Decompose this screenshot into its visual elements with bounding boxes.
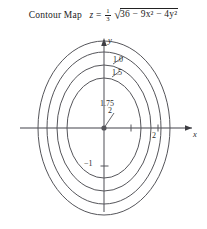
leader-level-2: [104, 113, 114, 128]
y-axis-label: y: [108, 35, 112, 45]
origin-point-marker: [101, 125, 106, 130]
contour-label-2: 2: [108, 106, 112, 115]
x-tick-label-2: 2: [152, 131, 156, 140]
x-axis-label: x: [193, 129, 197, 139]
plot-canvas: [0, 0, 207, 229]
contour-label-1.5: 1.5: [112, 68, 122, 77]
x-axis-arrow-icon: [185, 125, 192, 131]
y-tick-label-minus-1: −1: [84, 159, 93, 168]
y-axis-arrow-icon: [101, 38, 107, 46]
contour-map-figure: Contour Map z = 1 3 √36 − 9x² − 4y²: [0, 0, 207, 229]
contour-label-1.0: 1.0: [113, 55, 123, 64]
